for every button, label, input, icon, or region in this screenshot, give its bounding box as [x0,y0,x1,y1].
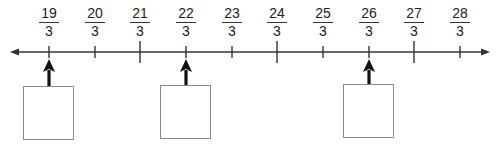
denominator: 3 [125,23,155,39]
numerator: 23 [222,6,242,23]
fraction-label: 273 [399,6,429,39]
fraction-label: 283 [445,6,475,39]
numerator: 19 [39,6,59,23]
denominator: 3 [171,23,201,39]
denominator: 3 [399,23,429,39]
fraction-label: 253 [308,6,338,39]
numerator: 27 [404,6,424,23]
denominator: 3 [80,23,110,39]
numerator: 26 [359,6,379,23]
denominator: 3 [354,23,384,39]
numerator: 25 [313,6,333,23]
denominator: 3 [34,23,64,39]
denominator: 3 [217,23,247,39]
numerator: 24 [267,6,287,23]
numerator: 28 [450,6,470,23]
fraction-label: 233 [217,6,247,39]
numerator: 20 [85,6,105,23]
arrow-left-icon [10,49,19,56]
fraction-label: 223 [171,6,201,39]
fraction-label: 193 [34,6,64,39]
arrow-right-icon [481,49,490,56]
numerator: 21 [130,6,150,23]
fraction-label: 243 [262,6,292,39]
fraction-label: 213 [125,6,155,39]
answer-box-2[interactable] [160,85,211,139]
number-line-diagram: 193203213223233243253263273283 [0,0,502,150]
fraction-label: 203 [80,6,110,39]
denominator: 3 [308,23,338,39]
numerator: 22 [176,6,196,23]
fraction-label: 263 [354,6,384,39]
answer-box-1[interactable] [23,86,74,140]
denominator: 3 [262,23,292,39]
denominator: 3 [445,23,475,39]
answer-box-3[interactable] [343,84,394,138]
